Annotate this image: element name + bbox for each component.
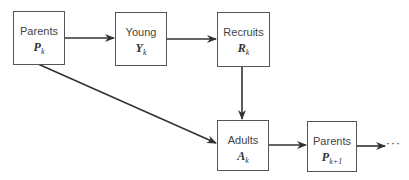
arrow-parents-to-adults [38,64,216,143]
node-label: Adults [218,134,268,146]
node-parents-k: Parents Pk [13,11,65,65]
node-young-k: Young Yk [115,12,167,66]
node-symbol: Pk+1 [308,150,356,166]
node-label: Recruits [218,26,269,38]
node-symbol: Pk [14,40,64,56]
node-parents-k-plus-1: Parents Pk+1 [307,121,357,172]
node-recruits-k: Recruits Rk [217,12,270,67]
node-symbol: Ak [218,149,268,165]
node-adults-k: Adults Ak [217,120,269,171]
node-symbol: Rk [218,41,269,57]
node-label: Parents [14,25,64,37]
node-symbol: Yk [116,41,166,57]
continuation-ellipsis: ··· [386,136,401,150]
node-label: Parents [308,135,356,147]
node-label: Young [116,26,166,38]
